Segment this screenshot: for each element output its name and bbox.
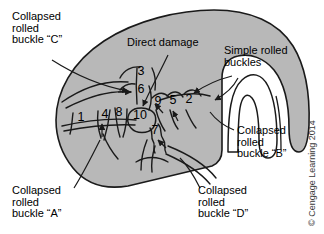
buckle-number-3: 3 [138, 64, 145, 78]
copyright-credit: © Cengage Learning 2014 [307, 120, 317, 226]
callout-collapsed-rolled-buckle-c: Collapsed rolled buckle “C” [12, 10, 64, 45]
damage-analysis-diagram: Collapsed rolled buckle “C” Direct damag… [0, 0, 324, 234]
buckle-number-9: 9 [155, 94, 162, 108]
buckle-number-4: 4 [102, 107, 109, 121]
buckle-number-7: 7 [152, 123, 159, 137]
buckle-number-1: 1 [78, 110, 85, 124]
callout-direct-damage: Direct damage [127, 36, 199, 48]
buckle-number-2: 2 [186, 92, 193, 106]
buckle-number-10: 10 [133, 108, 147, 122]
callout-collapsed-rolled-buckle-d: Collapsed rolled buckle “D” [198, 184, 250, 219]
buckle-number-8: 8 [116, 105, 123, 119]
callout-collapsed-rolled-buckle-a: Collapsed rolled buckle “A” [12, 184, 64, 219]
buckle-number-6: 6 [138, 82, 145, 96]
buckle-number-5: 5 [170, 93, 177, 107]
